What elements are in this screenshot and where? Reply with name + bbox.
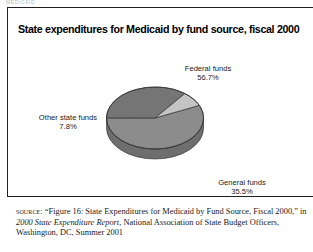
- label-general-name: General funds: [218, 178, 266, 187]
- figure-title: State expenditures for Medicaid by fund …: [18, 23, 299, 35]
- label-general-funds: General funds 35.5%: [194, 178, 290, 197]
- label-other-pct: 7.8%: [22, 122, 114, 131]
- source-note: SOURCE: “Figure 16: State Expenditures f…: [16, 206, 309, 239]
- running-head: MEDICAID: [6, 0, 126, 4]
- source-italic-title: 2000 State Expenditure Report: [16, 218, 119, 227]
- label-general-pct: 35.5%: [194, 187, 290, 196]
- label-other-name: Other state funds: [39, 113, 97, 122]
- label-federal-name: Federal funds: [185, 64, 231, 73]
- label-federal-pct: 56.7%: [160, 73, 256, 82]
- source-label: SOURCE:: [16, 206, 43, 216]
- label-other-state-funds: Other state funds 7.8%: [22, 113, 114, 132]
- label-federal-funds: Federal funds 56.7%: [160, 64, 256, 83]
- pie-chart: Federal funds 56.7% Other state funds 7.…: [8, 40, 313, 196]
- pie-top-face: [107, 87, 204, 149]
- figure-box: State expenditures for Medicaid by fund …: [7, 7, 313, 197]
- source-text-before: “Figure 16: State Expenditures for Medic…: [43, 207, 307, 216]
